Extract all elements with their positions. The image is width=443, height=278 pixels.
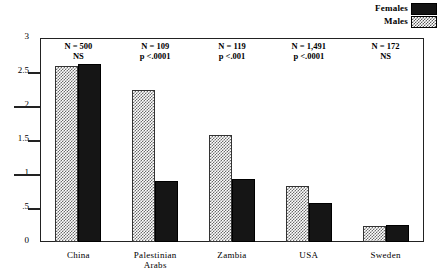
y-axis-tick: 0 — [0, 242, 40, 243]
bar-males — [209, 135, 232, 242]
x-axis-label-line1: Sweden — [341, 250, 431, 260]
legend-swatch-males-icon — [411, 16, 437, 28]
legend-swatch-females-icon — [411, 3, 437, 15]
bar-females — [155, 181, 178, 242]
y-axis-tick: 1 — [0, 174, 40, 175]
group-annotation: N = 172NS — [341, 42, 431, 61]
y-axis-tick-label: 2.5 — [18, 65, 29, 75]
y-axis-tick-label: .5 — [22, 201, 29, 211]
y-axis-tick-mark — [28, 72, 40, 74]
x-axis-label: Sweden — [341, 250, 431, 260]
y-axis-tick-label: 0 — [25, 235, 30, 245]
y-axis-tick: 3 — [0, 38, 40, 39]
bar-males — [286, 186, 309, 242]
bar-females — [386, 225, 409, 242]
y-axis-tick: .5 — [0, 208, 40, 209]
legend-label-females: Females — [375, 2, 411, 15]
y-axis-tick-mark — [28, 140, 40, 142]
bar-females — [309, 203, 332, 242]
y-axis-tick-mark — [14, 174, 40, 176]
bar-females — [78, 64, 101, 242]
bar-males — [132, 90, 155, 242]
annotation-p-value: NS — [341, 52, 431, 62]
y-axis-tick: 2 — [0, 106, 40, 107]
bar-males — [363, 226, 386, 242]
y-axis-tick-label: 1.5 — [18, 133, 29, 143]
legend-item-females: Females — [297, 2, 437, 15]
bars-layer — [40, 38, 424, 242]
y-axis-tick-label: 2 — [25, 99, 30, 109]
y-axis-tick-mark — [14, 106, 40, 108]
y-axis-tick-label: 1 — [25, 167, 30, 177]
y-axis-tick: 1.5 — [0, 140, 40, 141]
legend-item-males: Males — [297, 15, 437, 28]
y-axis-tick-label: 3 — [25, 31, 30, 41]
bar-females — [232, 179, 255, 242]
x-axis-label-line2: Arabs — [110, 260, 200, 270]
bar-chart: Females Males 0.511.522.53 N = 500NSN = … — [0, 0, 443, 278]
y-axis-tick-mark — [28, 208, 40, 210]
y-axis-tick: 2.5 — [0, 72, 40, 73]
bar-males — [55, 66, 78, 242]
chart-legend: Females Males — [297, 2, 437, 28]
legend-label-males: Males — [384, 15, 411, 28]
